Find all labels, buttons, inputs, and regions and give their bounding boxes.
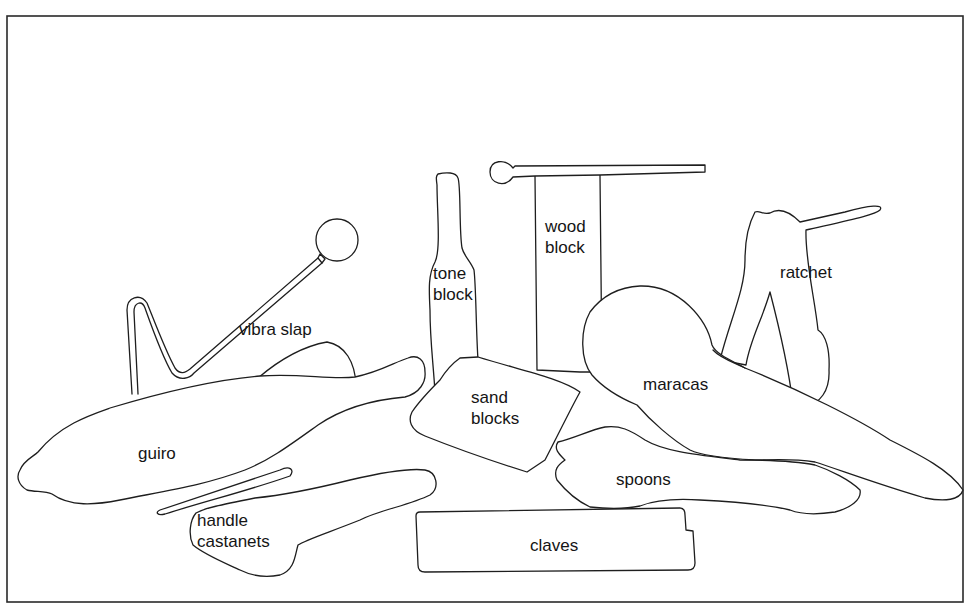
label-wood-block: wood block [545, 216, 586, 258]
instrument-illustration [0, 0, 965, 604]
label-ratchet: ratchet [780, 262, 832, 283]
label-guiro: guiro [138, 443, 176, 464]
label-claves: claves [530, 535, 578, 556]
label-handle-castanets: handle castanets [197, 510, 270, 552]
label-sand-blocks: sand blocks [471, 387, 519, 429]
vibra-slap-drawing [127, 219, 358, 394]
label-maracas: maracas [643, 374, 708, 395]
label-vibra-slap: vibra slap [239, 319, 312, 340]
label-tone-block: tone block [433, 263, 473, 305]
label-spoons: spoons [616, 469, 671, 490]
